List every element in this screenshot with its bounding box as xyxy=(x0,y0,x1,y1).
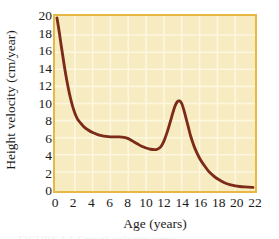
y-tick-label: 12 xyxy=(28,79,52,92)
y-tick-label: 18 xyxy=(28,27,52,40)
y-tick-label: 20 xyxy=(28,9,52,22)
y-tick-label: 8 xyxy=(28,114,52,127)
y-tick-label: 10 xyxy=(28,97,52,110)
y-axis-title: Height velocity (cm/year) xyxy=(2,2,20,198)
x-axis-title: Age (years) xyxy=(53,216,257,232)
caption-sliver: FIGURE 1.1 Growth velocity curve xyxy=(18,234,218,239)
y-tick-label: 6 xyxy=(28,132,52,145)
y-tick-label: 16 xyxy=(28,44,52,57)
plot-area xyxy=(53,14,257,193)
x-tick-label: 22 xyxy=(243,195,267,211)
y-tick-label: 4 xyxy=(28,149,52,162)
height-velocity-curve xyxy=(55,16,255,191)
growth-velocity-figure: Height velocity (cm/year) 02468101214161… xyxy=(0,0,279,239)
y-tick-label: 14 xyxy=(28,62,52,75)
y-tick-label: 2 xyxy=(28,167,52,180)
x-axis-tick-labels: 0246810121416182022 xyxy=(0,195,279,213)
